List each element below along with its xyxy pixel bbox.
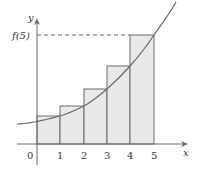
x-tick-label-2: 2 — [81, 150, 87, 161]
x-tick-label-3: 3 — [104, 150, 110, 161]
bars — [37, 35, 154, 144]
f5-label: f(5) — [11, 30, 30, 41]
y-axis-label: y — [27, 12, 34, 23]
riemann-sum-diagram: y x f(5) 0 1 2 3 4 5 — [0, 0, 202, 172]
x-tick-label-0: 0 — [27, 150, 33, 161]
x-tick-label-4: 4 — [127, 150, 133, 161]
x-tick-label-5: 5 — [151, 150, 157, 161]
bar-2-3 — [84, 89, 107, 144]
x-tick-label-1: 1 — [57, 150, 63, 161]
x-axis-label: x — [183, 147, 189, 158]
